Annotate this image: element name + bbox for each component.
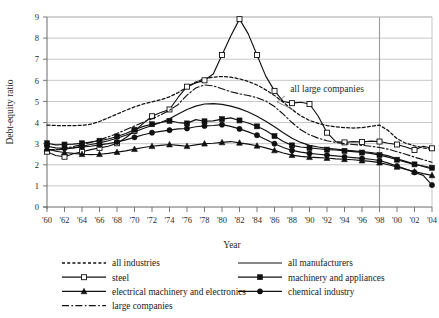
x-tick-label: '82 [234, 215, 244, 225]
series-marker [307, 151, 312, 156]
legend-label: machinery and appliances [288, 273, 385, 283]
x-tick-label: '04 [427, 215, 438, 225]
x-tick-label: '66 [94, 215, 104, 225]
x-tick-label: '96 [357, 215, 367, 225]
series-marker [360, 139, 365, 144]
series-marker [254, 133, 259, 138]
y-axis-title: Debt-equity ratio [5, 79, 15, 144]
series-marker [237, 126, 242, 131]
series-marker [395, 157, 400, 162]
series-marker [342, 148, 347, 153]
debt-equity-ratio-line-chart: 0123456789 '60'62'64'66'68'70'72'74'76'7… [0, 0, 439, 318]
x-tick-label: '84 [252, 215, 263, 225]
chart-figure: 0123456789 '60'62'64'66'68'70'72'74'76'7… [0, 0, 439, 318]
series-marker [412, 148, 417, 153]
legend-label: all industries [112, 258, 160, 268]
legend-label: all manufacturers [288, 258, 353, 268]
series-marker [202, 123, 207, 128]
y-tick-label: 7 [35, 54, 39, 64]
series-marker [324, 152, 329, 157]
series-marker [44, 144, 49, 149]
series-marker [237, 17, 242, 22]
legend-label: large companies [112, 301, 173, 311]
x-tick-label: '98 [374, 215, 384, 225]
y-tick-label: 8 [35, 33, 39, 43]
x-tick-label: '64 [77, 215, 88, 225]
series-marker [255, 53, 260, 58]
series-marker [272, 134, 277, 139]
x-tick-label: '00 [392, 215, 402, 225]
y-tick-label: 3 [35, 139, 39, 149]
series-marker [359, 156, 364, 161]
x-tick-label: '90 [304, 215, 314, 225]
series-marker [360, 150, 365, 155]
legend-label: chemical industry [288, 287, 355, 297]
y-tick-label: 5 [35, 97, 39, 107]
series-marker [430, 165, 435, 170]
series-marker [429, 182, 434, 187]
x-tick-label: '60 [42, 215, 52, 225]
series-marker [220, 53, 225, 58]
series-marker [167, 118, 172, 123]
series-marker [149, 130, 154, 135]
series-marker [412, 170, 417, 175]
series-marker [394, 163, 399, 168]
series-marker [342, 154, 347, 159]
legend-marker [82, 275, 87, 280]
series-marker [377, 153, 382, 158]
y-tick-label: 6 [35, 76, 39, 86]
series-marker [430, 146, 435, 151]
series-marker [412, 162, 417, 167]
x-tick-label: '68 [112, 215, 122, 225]
series-marker [114, 139, 119, 144]
series-marker [255, 124, 260, 129]
series-marker [202, 78, 207, 83]
series-marker [307, 101, 312, 106]
series-marker [290, 143, 295, 148]
series-marker [185, 121, 190, 126]
series-marker [237, 118, 242, 123]
x-tick-label: '70 [129, 215, 139, 225]
series-marker [97, 142, 102, 147]
annotation-label: all large companies [290, 84, 364, 94]
x-tick-label: '62 [59, 215, 69, 225]
x-tick-label: '74 [164, 215, 175, 225]
series-marker [167, 128, 172, 133]
series-marker [272, 88, 277, 93]
legend-label: electrical machinery and electronics [112, 287, 246, 297]
legend-marker [257, 289, 262, 294]
legend-label: steel [112, 273, 129, 283]
y-tick-label: 2 [35, 160, 39, 170]
x-tick-label: '02 [409, 215, 419, 225]
x-axis-title: Year [223, 240, 241, 250]
legend-marker [258, 275, 263, 280]
y-tick-label: 1 [35, 181, 39, 191]
series-marker [377, 158, 382, 163]
x-tick-label: '78 [199, 215, 209, 225]
series-marker [185, 84, 190, 89]
series-marker [150, 122, 155, 127]
series-marker [325, 147, 330, 152]
series-marker [184, 126, 189, 131]
x-tick-label: '88 [287, 215, 297, 225]
series-marker [395, 142, 400, 147]
series-marker [325, 130, 330, 135]
series-marker [289, 148, 294, 153]
y-tick-label: 0 [35, 202, 39, 212]
series-marker [377, 139, 382, 144]
x-tick-label: '76 [182, 215, 192, 225]
x-tick-label: '80 [217, 215, 227, 225]
series-marker [307, 145, 312, 150]
series-marker [132, 127, 137, 132]
series-marker [220, 117, 225, 122]
x-tick-label: '94 [339, 215, 350, 225]
series-marker [272, 141, 277, 146]
x-tick-label: '72 [147, 215, 157, 225]
x-tick-label: '86 [269, 215, 279, 225]
y-tick-label: 9 [35, 12, 39, 22]
series-marker [290, 101, 295, 106]
series-marker [132, 135, 137, 140]
x-tick-label: '92 [322, 215, 332, 225]
series-marker [219, 122, 224, 127]
